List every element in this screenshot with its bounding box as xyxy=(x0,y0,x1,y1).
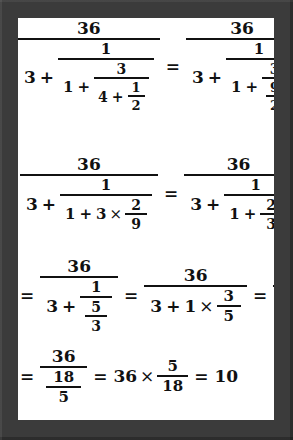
equals-sign: = xyxy=(166,58,180,75)
multiplication-sign: × xyxy=(110,207,123,222)
picture-frame: 36 3 + 1 1 + xyxy=(0,0,293,440)
worksheet-paper: 36 3 + 1 1 + xyxy=(18,18,274,420)
fraction-level-2: 3 5 xyxy=(217,289,241,324)
fraction-outer-7: 36 3 + 3 5 xyxy=(273,267,274,324)
equals-sign: = xyxy=(93,368,107,385)
equals-sign: = xyxy=(253,287,267,304)
expression-10: 10 xyxy=(214,368,238,385)
equals-sign: = xyxy=(124,287,138,304)
equation-row-4: = 36 18 5 xyxy=(20,348,238,405)
multiplicand: 36 xyxy=(113,368,137,385)
plus-sign: + xyxy=(245,80,258,95)
expression-1: 36 3 + 1 1 + xyxy=(18,20,160,112)
plus-sign: + xyxy=(112,90,124,104)
fraction-level-2: 1 1 + 3 × 2 xyxy=(60,178,152,231)
denominator: 18 5 xyxy=(40,368,87,405)
fraction-level-3: 3 4 + 1 xyxy=(94,62,149,112)
denominator: 3 + 1 1 + 3 xyxy=(18,40,160,112)
plus-sign: + xyxy=(166,298,180,315)
equals-sign: = xyxy=(194,368,208,385)
equation-row-2: 36 3 + 1 1 + xyxy=(20,156,274,231)
fraction-level-4: 1 2 xyxy=(128,81,145,112)
expression-7: 36 3 + 3 5 xyxy=(273,267,274,324)
expression-4: 36 3 + 1 1 + xyxy=(184,156,274,231)
equation-row-1: 36 3 + 1 1 + xyxy=(18,20,274,112)
plus-sign: + xyxy=(80,207,93,222)
equals-sign-leading: = xyxy=(20,368,34,385)
equation-row-3: = 36 3 + 1 xyxy=(20,258,274,333)
numerator: 36 xyxy=(44,348,84,366)
plus-sign: + xyxy=(62,298,76,315)
fraction-level-2: 18 5 xyxy=(46,370,81,405)
numerator: 36 xyxy=(69,20,109,38)
fraction-level-4: 9 2 xyxy=(266,81,274,112)
expression-8: 36 18 5 xyxy=(40,348,87,405)
plus-sign: + xyxy=(42,196,56,213)
fraction-level-2: 1 1 + 2 xyxy=(224,178,274,231)
fraction-outer-2: 36 3 + 1 1 + xyxy=(186,20,274,112)
fraction-outer-3: 36 3 + 1 1 + xyxy=(20,156,158,231)
fraction-level-3: 2 9 xyxy=(125,198,147,231)
fraction-outer-8: 36 18 5 xyxy=(40,348,87,405)
fraction-9: 5 18 xyxy=(157,359,188,394)
denominator: 3 + 1 1 + 3 xyxy=(186,40,274,112)
expression-5: 36 3 + 1 xyxy=(40,258,118,333)
fraction-outer-6: 36 3 + 1 × 3 5 xyxy=(144,267,247,324)
fraction-level-2: 1 1 + 3 xyxy=(58,42,154,112)
denominator: 3 + 1 1 + 2 xyxy=(184,176,274,231)
expression-3: 36 3 + 1 1 + xyxy=(20,156,158,231)
equals-sign-leading: = xyxy=(20,287,34,304)
fraction-outer-1: 36 3 + 1 1 + xyxy=(18,20,160,112)
fraction-outer-5: 36 3 + 1 xyxy=(40,258,118,333)
multiplication-sign: × xyxy=(199,298,213,315)
equals-sign: = xyxy=(164,185,178,202)
plus-sign: + xyxy=(40,69,54,86)
numerator: 36 xyxy=(176,267,216,285)
numerator: 36 xyxy=(59,258,99,276)
multiplication-sign: × xyxy=(140,368,154,385)
numerator: 36 xyxy=(219,156,259,174)
expression-6: 36 3 + 1 × 3 5 xyxy=(144,267,247,324)
denominator: 3 + 1 5 xyxy=(40,278,118,333)
final-result: 10 xyxy=(214,368,238,385)
denominator: 3 + 1 × 3 5 xyxy=(144,287,247,324)
expression-2: 36 3 + 1 1 + xyxy=(186,20,274,112)
fraction-outer-4: 36 3 + 1 1 + xyxy=(184,156,274,231)
numerator: 36 xyxy=(69,156,109,174)
fraction-level-3: 5 3 xyxy=(85,300,107,333)
numerator: 36 xyxy=(222,20,262,38)
fraction-level-3: 2 3 xyxy=(260,198,274,231)
denominator: 3 + 3 5 xyxy=(273,287,274,324)
fraction-level-2: 1 1 + 3 xyxy=(226,42,274,112)
plus-sign: + xyxy=(78,80,91,95)
plus-sign: + xyxy=(244,207,257,222)
denominator: 3 + 1 1 + 3 × xyxy=(20,176,158,231)
plus-sign: + xyxy=(208,69,222,86)
plus-sign: + xyxy=(206,196,220,213)
fraction-level-3: 3 9 xyxy=(262,62,274,112)
expression-9: 36 × 5 18 xyxy=(113,359,188,394)
fraction-level-2: 1 5 3 xyxy=(80,280,112,333)
